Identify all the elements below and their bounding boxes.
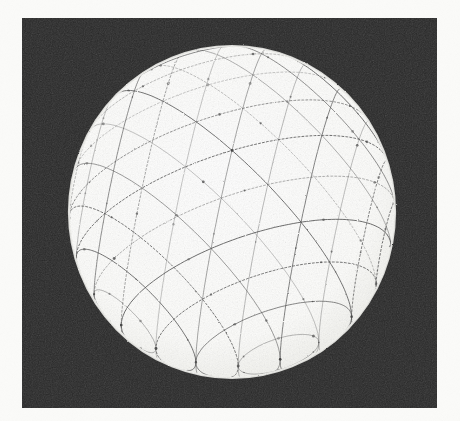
mesh-vertex (187, 258, 190, 261)
mesh-vertex (331, 251, 333, 253)
mesh-vertex (366, 140, 369, 143)
mesh-vertex (93, 293, 95, 295)
mesh-vertex (265, 319, 267, 321)
mesh-vertex (231, 149, 234, 152)
mesh-vertex (132, 96, 133, 97)
mesh-vertex (102, 122, 105, 125)
mesh-vertex (376, 207, 378, 209)
mesh-vertex (359, 239, 362, 242)
mesh-vertex (302, 298, 304, 300)
mesh-vertex (234, 323, 237, 326)
mesh-vertex (356, 144, 359, 147)
mesh-vertex (84, 192, 86, 194)
mesh-vertex (113, 257, 116, 260)
mesh-vertex (102, 117, 104, 119)
mesh-vertex (202, 180, 205, 183)
mesh-vertex (237, 365, 240, 368)
mesh-vertex (249, 82, 252, 85)
mesh-vertex (243, 372, 244, 373)
image-panel (22, 18, 437, 408)
mesh-vertex (312, 335, 315, 338)
mesh-vertex (277, 337, 280, 340)
mesh-vertex (360, 252, 362, 254)
sphere-figure (22, 18, 437, 408)
mesh-vertex (218, 113, 221, 116)
mesh-vertex (318, 342, 319, 343)
mesh-vertex (357, 113, 359, 115)
mesh-vertex (106, 202, 108, 204)
mesh-vertex (213, 233, 215, 235)
mesh-vertex (384, 228, 386, 230)
figure-root: A white sphere rendered on a dark rectan… (0, 0, 460, 421)
mesh-vertex (195, 361, 197, 363)
mesh-vertex (77, 162, 79, 164)
mesh-vertex (349, 105, 351, 107)
mesh-vertex (377, 176, 380, 179)
mesh-vertex (312, 301, 314, 303)
sphere-disc (69, 46, 395, 378)
mesh-vertex (313, 351, 315, 353)
mesh-vertex (279, 358, 281, 360)
mesh-vertex (187, 339, 189, 341)
mesh-vertex (159, 64, 162, 67)
mesh-vertex (252, 53, 255, 56)
mesh-vertex (335, 271, 337, 273)
mesh-vertex (290, 96, 292, 98)
mesh-vertex (326, 117, 328, 119)
mesh-vertex (206, 84, 209, 87)
mesh-vertex (172, 223, 175, 226)
mesh-vertex (90, 145, 93, 148)
mesh-vertex (86, 162, 89, 165)
mesh-vertex (83, 248, 86, 251)
mesh-vertex (351, 316, 353, 318)
mesh-vertex (195, 290, 197, 292)
mesh-vertex (155, 347, 157, 349)
mesh-vertex (88, 181, 90, 183)
mesh-vertex (243, 190, 245, 192)
mesh-vertex (267, 56, 269, 58)
mesh-vertex (295, 247, 297, 249)
mesh-vertex (243, 356, 245, 358)
mesh-vertex (375, 282, 378, 285)
mesh-vertex (373, 181, 376, 184)
mesh-vertex (127, 89, 129, 91)
mesh-vertex (286, 101, 288, 103)
mesh-vertex (167, 82, 170, 85)
mesh-vertex (136, 213, 138, 215)
mesh-vertex (142, 85, 144, 87)
mesh-vertex (322, 218, 325, 221)
mesh-vertex (207, 78, 210, 81)
mesh-vertex (351, 130, 354, 133)
mesh-vertex (96, 220, 98, 222)
mesh-vertex (139, 320, 142, 323)
mesh-vertex (377, 270, 378, 271)
mesh-vertex (110, 216, 112, 218)
mesh-vertex (135, 278, 137, 280)
mesh-vertex (175, 214, 178, 217)
mesh-vertex (108, 293, 110, 295)
mesh-vertex (255, 241, 256, 242)
mesh-vertex (320, 261, 322, 263)
mesh-vertex (210, 293, 212, 295)
mesh-vertex (260, 122, 262, 124)
mesh-vertex (120, 324, 122, 326)
